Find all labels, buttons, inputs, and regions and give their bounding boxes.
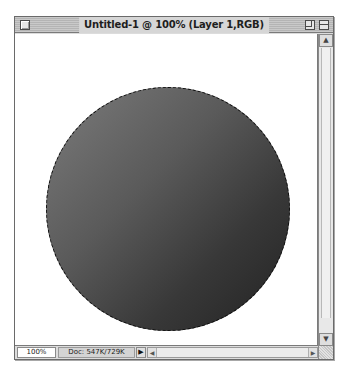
document-size-info: Doc: 547K/729K xyxy=(58,347,135,358)
canvas[interactable] xyxy=(15,34,318,346)
scroll-up-icon[interactable]: ▲ xyxy=(319,34,333,47)
window-title: Untitled-1 @ 100% (Layer 1,RGB) xyxy=(79,17,269,33)
document-window: Untitled-1 @ 100% (Layer 1,RGB) ▲ ▼ 100%… xyxy=(14,16,334,360)
resize-grip-icon[interactable] xyxy=(318,345,333,359)
circle-layer-shape[interactable] xyxy=(46,87,290,331)
vertical-scrollbar[interactable]: ▲ ▼ xyxy=(318,34,333,346)
status-menu-arrow-icon[interactable]: ▶ xyxy=(136,347,146,358)
collapse-window-icon[interactable] xyxy=(319,20,329,30)
zoom-level-field[interactable]: 100% xyxy=(17,347,56,358)
vertical-scroll-track[interactable] xyxy=(321,48,331,318)
title-bar[interactable]: Untitled-1 @ 100% (Layer 1,RGB) xyxy=(15,17,333,33)
status-bar: 100% Doc: 547K/729K ▶ ◀ ▶ xyxy=(15,345,333,359)
scroll-left-icon[interactable]: ◀ xyxy=(148,348,157,357)
scroll-right-icon[interactable]: ▶ xyxy=(308,348,317,357)
zoom-window-icon[interactable] xyxy=(305,20,315,30)
close-icon[interactable] xyxy=(20,20,30,30)
horizontal-scrollbar[interactable]: ◀ ▶ xyxy=(147,347,318,358)
